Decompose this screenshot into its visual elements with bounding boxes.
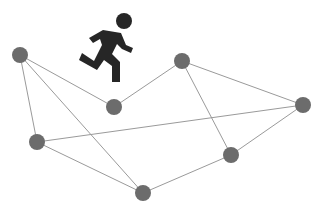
node-C — [174, 53, 190, 69]
edge-F-D — [231, 105, 303, 155]
nodes-group — [12, 47, 311, 201]
node-E — [29, 134, 45, 150]
node-A — [12, 47, 28, 63]
diagram-svg — [0, 0, 323, 212]
node-F — [223, 147, 239, 163]
edges-group — [20, 55, 303, 193]
edge-E-G — [37, 142, 143, 193]
edge-C-F — [182, 61, 231, 155]
node-G — [135, 185, 151, 201]
network-diagram — [0, 0, 323, 212]
edge-A-G — [20, 55, 143, 193]
running-person-icon — [79, 13, 133, 82]
edge-B-C — [114, 61, 182, 107]
node-D — [295, 97, 311, 113]
edge-C-D — [182, 61, 303, 105]
node-B — [106, 99, 122, 115]
edge-G-F — [143, 155, 231, 193]
edge-A-E — [20, 55, 37, 142]
edge-E-D — [37, 105, 303, 142]
